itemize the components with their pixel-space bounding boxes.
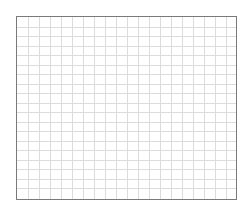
grid-horizontal-line	[17, 160, 236, 161]
grid-horizontal-line	[17, 179, 236, 180]
grid-vertical-line	[204, 17, 205, 199]
grid-horizontal-line	[17, 141, 236, 142]
grid-vertical-line	[94, 17, 95, 199]
grid-horizontal-line	[17, 188, 236, 189]
grid-vertical-line	[149, 17, 150, 199]
grid-vertical-line	[28, 17, 29, 199]
grid-horizontal-line	[17, 27, 236, 28]
grid-horizontal-line	[17, 46, 236, 47]
grid-vertical-line	[50, 17, 51, 199]
grid-horizontal-line	[17, 74, 236, 75]
grid-horizontal-line	[17, 122, 236, 123]
grid-vertical-line	[83, 17, 84, 199]
grid-vertical-line	[182, 17, 183, 199]
grid-horizontal-line	[17, 65, 236, 66]
grid-horizontal-line	[17, 55, 236, 56]
grid-vertical-line	[127, 17, 128, 199]
grid-horizontal-line	[17, 150, 236, 151]
grid-horizontal-line	[17, 131, 236, 132]
grid-horizontal-line	[17, 112, 236, 113]
grid-vertical-line	[138, 17, 139, 199]
grid-lines	[17, 17, 236, 199]
grid-vertical-line	[39, 17, 40, 199]
grid-vertical-line	[160, 17, 161, 199]
grid-vertical-line	[61, 17, 62, 199]
grid-vertical-line	[72, 17, 73, 199]
grid-horizontal-line	[17, 169, 236, 170]
grid-horizontal-line	[17, 103, 236, 104]
grid-vertical-line	[193, 17, 194, 199]
grid-vertical-line	[215, 17, 216, 199]
grid-vertical-line	[116, 17, 117, 199]
grid-frame	[16, 16, 237, 200]
grid-horizontal-line	[17, 84, 236, 85]
grid-horizontal-line	[17, 93, 236, 94]
grid-horizontal-line	[17, 36, 236, 37]
grid-vertical-line	[171, 17, 172, 199]
grid-vertical-line	[226, 17, 227, 199]
grid-vertical-line	[105, 17, 106, 199]
